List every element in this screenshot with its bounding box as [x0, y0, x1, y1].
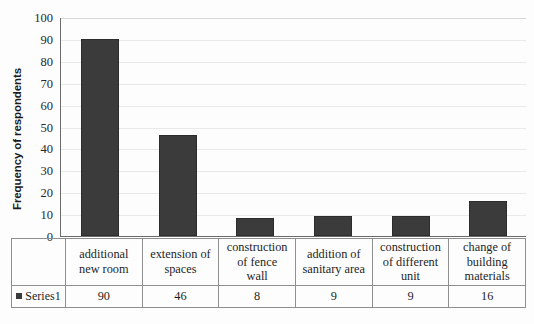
value-cell-4: 9	[372, 285, 449, 307]
value-cell-3: 9	[295, 285, 372, 307]
category-cell-3: addition ofsanitary area	[295, 239, 372, 286]
value-cell-5: 16	[449, 285, 526, 307]
bar-4	[392, 216, 430, 236]
legend-label: Series1	[25, 289, 60, 303]
y-tick-label: 100	[34, 11, 53, 26]
gridline	[61, 171, 526, 172]
gridline	[61, 84, 526, 85]
table-corner-blank	[12, 239, 66, 286]
gridline	[61, 62, 526, 63]
y-tick-label: 70	[41, 76, 54, 91]
table-row-categories: additionalnew roomextension ofspacescons…	[12, 239, 526, 286]
y-tick-label: 50	[41, 120, 54, 135]
gridline	[61, 128, 526, 129]
y-tick-label: 20	[41, 186, 54, 201]
gridline	[61, 193, 526, 194]
y-tick-label: 90	[41, 32, 54, 47]
category-cell-2: constructionof fencewall	[219, 239, 296, 286]
table-row-values: Series1904689916	[12, 285, 526, 307]
bar-1	[159, 135, 197, 236]
y-tick-label: 80	[41, 54, 54, 69]
gridline	[61, 40, 526, 41]
gridline	[61, 18, 526, 19]
bar-2	[236, 218, 274, 236]
y-tick-label: 60	[41, 98, 54, 113]
value-cell-2: 8	[219, 285, 296, 307]
chart-figure: Frequency of respondents 100908070605040…	[0, 0, 534, 324]
value-cell-0: 90	[66, 285, 143, 307]
gridline	[61, 215, 526, 216]
y-tick-label: 40	[41, 142, 54, 157]
y-tick-label: 30	[41, 164, 54, 179]
bar-3	[314, 216, 352, 236]
gridline	[61, 149, 526, 150]
legend-entry[interactable]: Series1	[12, 285, 66, 307]
gridline	[61, 106, 526, 107]
category-cell-4: constructionof differentunit	[372, 239, 449, 286]
legend-marker-icon	[16, 293, 22, 299]
data-table: additionalnew roomextension ofspacescons…	[11, 238, 526, 308]
category-cell-5: change ofbuildingmaterials	[449, 239, 526, 286]
value-cell-1: 46	[142, 285, 219, 307]
category-cell-1: extension ofspaces	[142, 239, 219, 286]
plot-area	[60, 18, 526, 237]
y-tick-label: 10	[41, 208, 54, 223]
category-cell-0: additionalnew room	[66, 239, 143, 286]
bar-0	[81, 39, 119, 236]
bar-5	[469, 201, 507, 236]
